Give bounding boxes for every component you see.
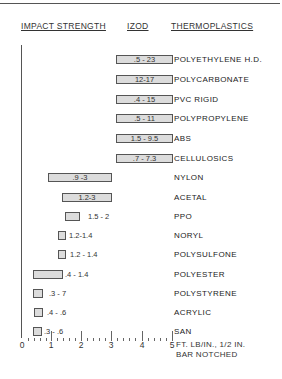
- label-polysulfone: POLYSULFONE: [174, 250, 237, 259]
- x-axis-unit-line2: BAR NOTCHED: [176, 350, 245, 360]
- minor-tick: [46, 338, 47, 341]
- value-polysulfone: 1.2 - 1.4: [70, 250, 98, 259]
- minor-tick: [34, 338, 35, 341]
- tick-label-1: 1: [49, 340, 54, 350]
- bar-polystyrene: [33, 289, 43, 298]
- minor-tick: [135, 338, 136, 341]
- minor-tick: [69, 338, 70, 341]
- bar-pvc-rigid: .4 - 15: [116, 95, 173, 104]
- bar-polyester: [33, 270, 63, 279]
- minor-tick: [40, 338, 41, 341]
- minor-tick: [105, 338, 106, 341]
- bar-polycarbonate: 12-17: [116, 75, 173, 84]
- value-san: .3 - .6: [44, 327, 63, 336]
- bar-cellulosics: .7 - 7.3: [116, 154, 173, 163]
- label-acetal: ACETAL: [174, 193, 207, 202]
- y-axis-line: [21, 45, 22, 338]
- minor-tick: [117, 338, 118, 341]
- value-acrylic: .4 - .6: [47, 308, 66, 317]
- label-polyester: POLYESTER: [174, 270, 225, 279]
- tick-label-0: 0: [20, 340, 25, 350]
- minor-tick: [63, 338, 64, 341]
- tick-label-2: 2: [79, 340, 84, 350]
- tick-label-3: 3: [109, 340, 114, 350]
- top-border-line: [0, 3, 280, 4]
- label-abs: ABS: [174, 134, 191, 143]
- minor-tick: [93, 338, 94, 341]
- tick-label-5: 5: [170, 340, 175, 350]
- minor-tick: [99, 338, 100, 341]
- bar-noryl: [58, 231, 66, 240]
- label-polycarbonate: POLYCARBONATE: [174, 75, 249, 84]
- label-polystyrene: POLYSTYRENE: [174, 289, 237, 298]
- minor-tick: [166, 338, 167, 341]
- label-noryl: NORYL: [174, 231, 203, 240]
- bar-acrylic: [34, 308, 43, 317]
- label-nylon: NYLON: [174, 173, 204, 182]
- minor-tick: [160, 338, 161, 341]
- label-polyethylene-hd: POLYETHYLENE H.D.: [174, 55, 262, 64]
- bar-ppo: [65, 212, 80, 221]
- bar-nylon: .9 -3: [48, 173, 112, 182]
- label-cellulosics: CELLULOSICS: [174, 154, 234, 163]
- minor-tick: [123, 338, 124, 341]
- value-polystyrene: .3 - 7: [49, 289, 66, 298]
- bar-abs: 1.5 - 9.5: [116, 134, 173, 143]
- bar-polyethylene-hd: .5 - 23: [116, 55, 173, 64]
- bar-san: [33, 327, 42, 336]
- bar-polypropylene: .5 - 11: [116, 114, 173, 123]
- bar-polysulfone: [58, 250, 66, 259]
- value-polyester: .4 - 1.4: [65, 270, 88, 279]
- x-axis-unit: FT. LB/IN., 1/2 IN. BAR NOTCHED: [176, 340, 245, 360]
- minor-tick: [75, 338, 76, 341]
- label-polypropylene: POLYPROPYLENE: [174, 114, 249, 123]
- minor-tick: [28, 338, 29, 341]
- label-san: SAN: [174, 327, 192, 336]
- value-ppo: 1.5 - 2: [88, 212, 109, 221]
- minor-tick: [57, 338, 58, 341]
- minor-tick: [129, 338, 130, 341]
- minor-tick: [87, 338, 88, 341]
- header-impact-strength: IMPACT STRENGTH: [21, 21, 106, 31]
- label-pvc-rigid: PVC RIGID: [174, 95, 219, 104]
- x-axis-unit-line1: FT. LB/IN., 1/2 IN.: [176, 340, 245, 350]
- bar-acetal: 1.2-3: [62, 193, 112, 202]
- tick-label-4: 4: [140, 340, 145, 350]
- header-thermoplastics: THERMOPLASTICS: [171, 21, 253, 31]
- header-izod: IZOD: [127, 21, 149, 31]
- value-noryl: 1.2-1.4: [69, 231, 92, 240]
- label-ppo: PPO: [174, 212, 192, 221]
- minor-tick: [148, 338, 149, 341]
- minor-tick: [154, 338, 155, 341]
- label-acrylic: ACRYLIC: [174, 308, 211, 317]
